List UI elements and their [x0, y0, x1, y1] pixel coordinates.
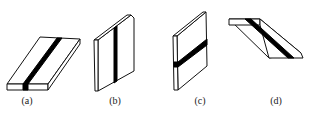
label-c: (c): [194, 95, 205, 106]
plate-d: [229, 19, 303, 58]
plate-b: [94, 15, 134, 91]
plate-a: [7, 37, 80, 90]
weld-bead-b: [114, 26, 117, 83]
label-b: (b): [109, 95, 121, 106]
diagram-canvas: [0, 0, 311, 121]
label-a: (a): [21, 95, 32, 106]
label-d: (d): [270, 95, 282, 106]
plate-c: [173, 12, 207, 90]
